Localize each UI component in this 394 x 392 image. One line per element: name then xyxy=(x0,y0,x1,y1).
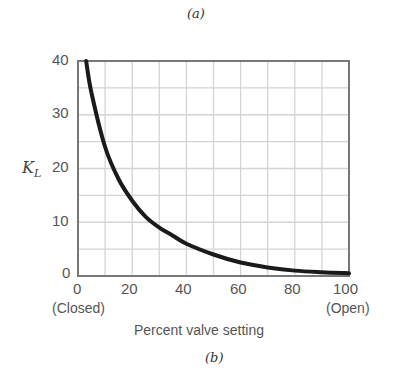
bottom-caption: (b) xyxy=(205,350,223,365)
closed-note: (Closed) xyxy=(52,300,105,316)
x-tick-60: 60 xyxy=(230,280,247,297)
y-tick-20: 20 xyxy=(52,158,69,175)
x-tick-20: 20 xyxy=(121,280,138,297)
open-note: (Open) xyxy=(326,300,370,316)
y-tick-40: 40 xyxy=(52,51,69,68)
y-tick-0: 0 xyxy=(62,264,70,281)
y-tick-30: 30 xyxy=(52,104,69,121)
x-tick-80: 80 xyxy=(284,280,301,297)
x-tick-100: 100 xyxy=(333,280,358,297)
y-axis-label: KL xyxy=(22,158,41,180)
x-tick-40: 40 xyxy=(175,280,192,297)
y-tick-10: 10 xyxy=(52,212,69,229)
x-tick-0: 0 xyxy=(73,280,81,297)
x-axis-label: Percent valve setting xyxy=(134,322,264,338)
grid xyxy=(78,61,349,276)
kl-curve xyxy=(86,61,349,273)
